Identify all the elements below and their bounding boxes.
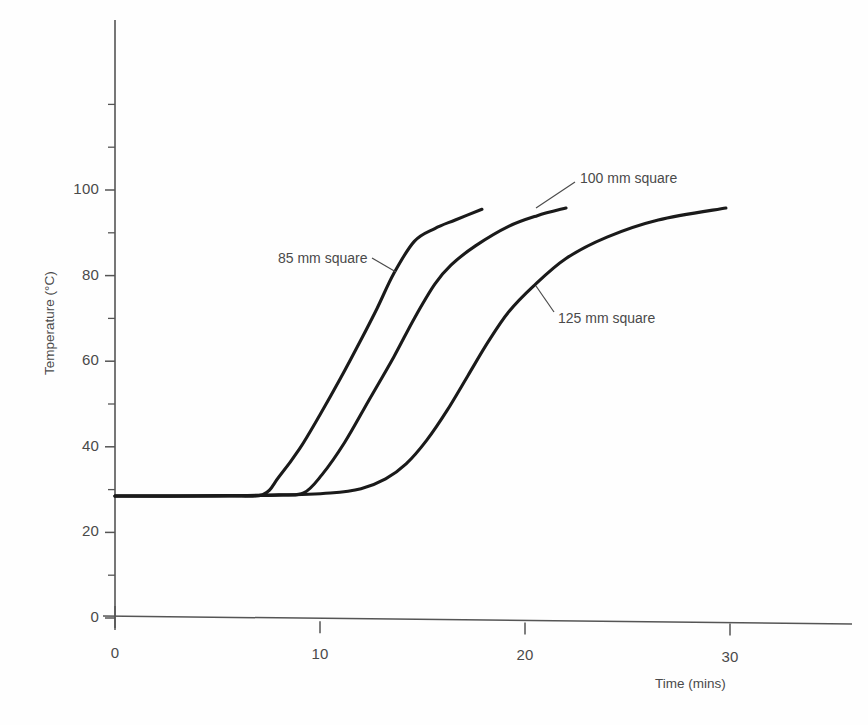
leader-line	[536, 182, 575, 208]
y-axis-tick-label: 0	[47, 608, 99, 625]
series-label-85-mm-square: 85 mm square	[278, 250, 367, 266]
series-line-125-mm-square	[115, 208, 726, 496]
y-axis-tick-label: 100	[47, 180, 99, 197]
x-axis-tick-label: 20	[495, 646, 555, 663]
chart-figure: 0204060801000102030 Temperature (°C) Tim…	[0, 0, 868, 725]
y-axis-tick-label: 40	[47, 437, 99, 454]
series-label-125-mm-square: 125 mm square	[558, 310, 655, 326]
axes-group	[103, 20, 852, 636]
x-axis-title: Time (mins)	[655, 676, 726, 691]
series-label-100-mm-square: 100 mm square	[580, 170, 677, 186]
x-axis-line	[103, 616, 852, 624]
x-axis-tick-label: 30	[700, 648, 760, 665]
x-axis-tick-label: 0	[85, 644, 145, 661]
data-series-group	[115, 208, 726, 496]
y-axis-tick-label: 20	[47, 522, 99, 539]
leader-line	[372, 258, 396, 272]
chart-plot-area	[0, 0, 868, 725]
leader-line	[536, 286, 554, 312]
x-axis-tick-label: 10	[290, 645, 350, 662]
y-axis-title: Temperature (°C)	[42, 271, 57, 375]
